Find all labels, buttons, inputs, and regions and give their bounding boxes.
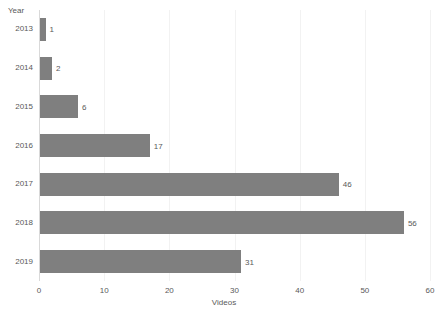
bar-row: 1	[39, 18, 430, 41]
bar-value-label: 31	[241, 257, 254, 266]
bar-row: 6	[39, 95, 430, 118]
bar	[39, 57, 52, 80]
x-axis-tick-label: 60	[426, 286, 435, 295]
y-axis-tick-label: 2019	[0, 257, 33, 266]
bar	[39, 173, 339, 196]
y-axis-tick-label: 2014	[0, 63, 33, 72]
bar-row: 46	[39, 173, 430, 196]
y-axis-tick-label: 2016	[0, 141, 33, 150]
gridline	[430, 10, 431, 281]
bar-value-label: 17	[150, 141, 163, 150]
x-axis-tick-label: 0	[37, 286, 41, 295]
bar-value-label: 6	[78, 102, 86, 111]
x-axis-title: Videos	[0, 298, 448, 307]
bar-value-label: 1	[46, 25, 54, 34]
x-axis-tick-label: 30	[230, 286, 239, 295]
bar	[39, 95, 78, 118]
x-axis-tick-label: 10	[100, 286, 109, 295]
y-axis-line	[39, 10, 40, 281]
bar	[39, 211, 404, 234]
bar-row: 2	[39, 57, 430, 80]
bar-value-label: 46	[339, 180, 352, 189]
bar-row: 31	[39, 250, 430, 273]
x-axis-tick-label: 40	[295, 286, 304, 295]
bar-chart: Year 12617465631 20132014201520162017201…	[0, 0, 448, 323]
bar-value-label: 2	[52, 64, 60, 73]
bar-row: 56	[39, 211, 430, 234]
y-axis-tick-label: 2017	[0, 179, 33, 188]
bar-row: 17	[39, 134, 430, 157]
bar	[39, 250, 241, 273]
bar	[39, 134, 150, 157]
x-axis-tick-label: 50	[360, 286, 369, 295]
bar-value-label: 56	[404, 218, 417, 227]
x-axis-tick-label: 20	[165, 286, 174, 295]
y-axis-tick-label: 2013	[0, 24, 33, 33]
y-axis-title: Year	[8, 6, 24, 15]
y-axis-tick-label: 2018	[0, 218, 33, 227]
y-axis-tick-label: 2015	[0, 102, 33, 111]
plot-area: 12617465631	[39, 10, 430, 281]
